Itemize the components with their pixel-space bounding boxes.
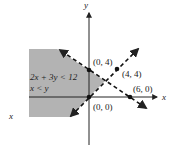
y-axis-label: y xyxy=(84,1,88,10)
point-6-0 xyxy=(128,95,133,100)
inequality-1: 2x + 3y < 12 xyxy=(30,73,77,82)
point-4-4 xyxy=(115,67,120,72)
point-0-4 xyxy=(87,68,92,73)
point-label-0-4: (0, 4) xyxy=(93,58,113,67)
inequality-2: x < y xyxy=(30,84,49,93)
point-0-0 xyxy=(87,95,92,100)
stray-x-label: x xyxy=(9,112,13,121)
point-label-0-0: (0, 0) xyxy=(93,103,113,112)
point-label-6-0: (6, 0) xyxy=(133,85,153,94)
point-label-4-4: (4, 4) xyxy=(122,70,142,79)
x-axis-label: x xyxy=(162,93,166,102)
inequality-graph xyxy=(0,0,170,146)
